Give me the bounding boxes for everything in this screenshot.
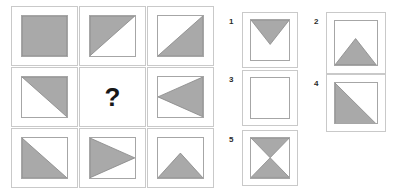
- matrix-cell-2[interactable]: [79, 6, 146, 66]
- matrix-grid: ?: [11, 6, 214, 188]
- shape-bowtie-vertical: [250, 137, 290, 178]
- matrix-cell-9[interactable]: [147, 128, 214, 188]
- matrix-cell-3[interactable]: [147, 6, 214, 66]
- option-label-2: 2: [314, 18, 318, 26]
- matrix-cell-6[interactable]: [147, 67, 214, 127]
- shape-triangle-lower-right: [157, 15, 204, 57]
- option-1[interactable]: [242, 12, 298, 68]
- answer-options: 1 2 3: [228, 4, 400, 190]
- option-3[interactable]: [242, 70, 298, 126]
- matrix-cell-7[interactable]: [11, 128, 78, 188]
- shape-triangle-lower-left: [21, 137, 68, 179]
- matrix-cell-1[interactable]: [11, 6, 78, 66]
- option-4[interactable]: [326, 74, 386, 132]
- shape-triangle-pointing-left: [157, 76, 204, 118]
- matrix-cell-8[interactable]: [79, 128, 146, 188]
- option-label-3: 3: [229, 76, 233, 84]
- shape-triangle-pointing-down: [250, 19, 290, 60]
- question-mark-label: ?: [80, 68, 145, 126]
- shape-triangle-pointing-up: [157, 137, 204, 179]
- matrix-cell-5-missing[interactable]: ?: [79, 67, 146, 127]
- shape-triangle-upper-right: [21, 76, 68, 118]
- option-label-5: 5: [229, 136, 233, 144]
- shape-triangle-pointing-right: [89, 137, 136, 179]
- option-label-1: 1: [229, 18, 233, 26]
- matrix-reasoning-puzzle: ?: [0, 0, 402, 193]
- option-2[interactable]: [326, 12, 386, 74]
- shape-full-square: [21, 15, 68, 57]
- matrix-cell-4[interactable]: [11, 67, 78, 127]
- option-label-4: 4: [314, 80, 318, 88]
- shape-triangle-upper-left: [89, 15, 136, 57]
- shape-empty-square: [250, 77, 290, 118]
- shape-triangle-lower-left: [334, 82, 377, 125]
- option-5[interactable]: [242, 130, 298, 186]
- shape-triangle-pointing-up: [334, 20, 377, 66]
